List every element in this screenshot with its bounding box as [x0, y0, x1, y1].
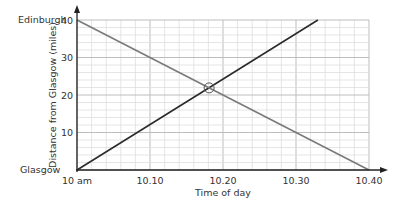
x-tick-label: 10.20: [209, 175, 236, 186]
x-tick-label: 10.30: [282, 175, 309, 186]
x-tick-label: 10 am: [62, 175, 92, 186]
x-tick-label: 10.10: [136, 175, 163, 186]
y-place-top: Edinburgh: [18, 14, 67, 25]
x-tick-label: 10.40: [355, 175, 382, 186]
tick-labels: 10 am10.1010.2010.3010.4010203040: [61, 15, 383, 187]
y-tick-label: 20: [61, 90, 73, 101]
x-axis-label: Time of day: [194, 187, 251, 198]
y-axis-label: Distance from Glasgow (miles): [47, 22, 58, 168]
x-axis-arrow-icon: [380, 167, 388, 173]
y-tick-label: 10: [61, 127, 73, 138]
distance-time-chart: 10 am10.1010.2010.3010.4010203040 Edinbu…: [0, 0, 402, 209]
y-tick-label: 30: [61, 52, 73, 63]
y-axis-arrow-icon: [74, 5, 80, 13]
